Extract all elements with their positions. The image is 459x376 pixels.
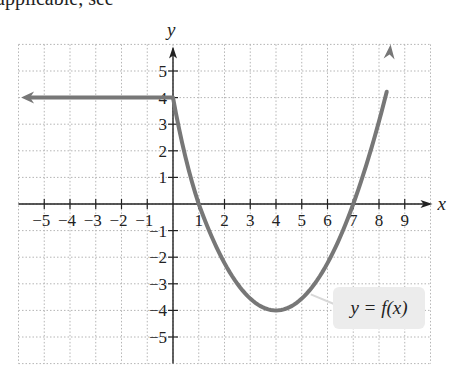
svg-text:1: 1	[159, 168, 168, 187]
svg-text:−4: −4	[149, 301, 168, 320]
svg-text:4: 4	[272, 211, 281, 230]
svg-text:y: y	[165, 19, 176, 40]
svg-text:−5: −5	[32, 211, 50, 230]
svg-text:−3: −3	[149, 275, 167, 294]
svg-text:9: 9	[401, 211, 410, 230]
svg-text:−2: −2	[109, 211, 127, 230]
svg-text:−4: −4	[58, 211, 77, 230]
svg-text:x: x	[437, 193, 447, 214]
svg-text:3: 3	[159, 115, 168, 134]
svg-text:−5: −5	[149, 328, 167, 347]
svg-text:−1: −1	[149, 222, 167, 241]
svg-text:2: 2	[220, 211, 229, 230]
svg-text:3: 3	[246, 211, 255, 230]
svg-text:5: 5	[298, 211, 307, 230]
svg-text:2: 2	[159, 142, 168, 161]
svg-text:−3: −3	[84, 211, 102, 230]
function-label: y = f(x)	[333, 287, 425, 329]
svg-text:5: 5	[159, 62, 168, 81]
svg-text:8: 8	[375, 211, 384, 230]
svg-text:6: 6	[323, 211, 332, 230]
svg-text:−2: −2	[149, 248, 167, 267]
